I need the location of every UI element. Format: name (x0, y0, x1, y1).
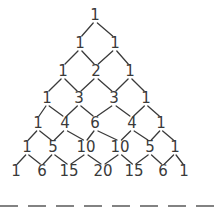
triangle-entry: 4 (60, 114, 70, 132)
triangle-entry: 1 (170, 138, 180, 156)
triangle-entry: 15 (124, 162, 143, 180)
triangle-entry: 1 (11, 162, 21, 180)
triangle-entry: 5 (145, 138, 155, 156)
triangle-entry: 1 (110, 34, 120, 52)
triangle-entry: 1 (179, 162, 189, 180)
triangle-entry: 15 (59, 162, 78, 180)
triangle-entry: 4 (127, 114, 137, 132)
triangle-numbers: 111121133114641151010511615201561 (11, 6, 189, 180)
triangle-entry: 3 (74, 89, 84, 107)
triangle-entry: 10 (76, 138, 95, 156)
triangle-entry: 5 (48, 138, 58, 156)
triangle-entry: 1 (75, 34, 85, 52)
pascal-triangle-diagram: 111121133114641151010511615201561 (0, 0, 214, 211)
triangle-entry: 1 (141, 89, 151, 107)
triangle-entry: 1 (90, 6, 100, 24)
triangle-entry: 10 (110, 138, 129, 156)
triangle-entry: 6 (158, 162, 168, 180)
triangle-entry: 1 (156, 114, 166, 132)
triangle-entry: 6 (90, 114, 100, 132)
triangle-entry: 20 (93, 162, 112, 180)
triangle-entry: 1 (33, 114, 43, 132)
triangle-entry: 6 (37, 162, 47, 180)
triangle-entry: 3 (109, 89, 119, 107)
triangle-entry: 2 (91, 62, 101, 80)
triangle-entry: 1 (58, 62, 68, 80)
triangle-entry: 1 (125, 62, 135, 80)
triangle-entry: 1 (42, 89, 52, 107)
triangle-entry: 1 (22, 138, 32, 156)
